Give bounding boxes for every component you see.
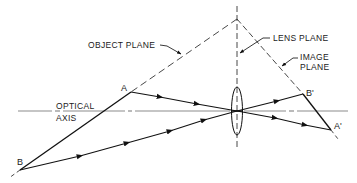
point-A-label: A <box>121 83 127 93</box>
image-plane-leader <box>282 58 298 66</box>
lens-plane-leader <box>240 38 270 53</box>
point-B-label: B <box>17 157 23 167</box>
image-plane-extension <box>331 130 338 139</box>
image-plane-label-line1: IMAGE <box>300 52 329 62</box>
object-plane-extension <box>9 170 20 178</box>
image-segment-BA <box>303 94 331 130</box>
scheimpflug-diagram: OBJECT PLANE LENS PLANE IMAGE PLANE OPTI… <box>0 0 357 183</box>
object-plane-leader <box>160 45 181 54</box>
image-plane-label-line2: PLANE <box>300 62 329 72</box>
lens-plane-label: LENS PLANE <box>273 33 328 43</box>
object-plane-label: OBJECT PLANE <box>88 40 155 50</box>
point-A-image-label: A' <box>334 121 342 131</box>
object-plane-line <box>131 19 237 92</box>
point-B-image-label: B' <box>306 88 314 98</box>
optical-axis-label-line1: OPTICAL <box>56 101 94 111</box>
image-plane-line <box>237 19 303 94</box>
optical-axis-label-line2: AXIS <box>56 113 77 123</box>
